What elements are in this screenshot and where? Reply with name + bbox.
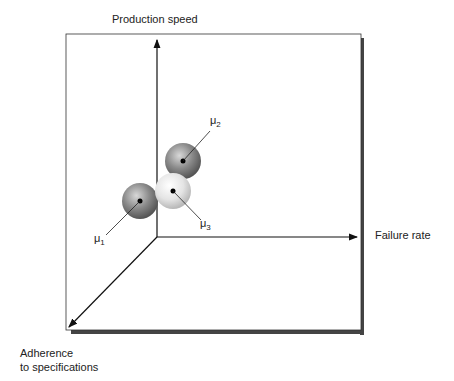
z-axis-label-line1: Adherence xyxy=(20,347,73,360)
cluster-mu3-label: μ3 xyxy=(200,217,211,232)
x-axis-label: Failure rate xyxy=(375,229,431,242)
y-axis-label: Production speed xyxy=(112,13,198,26)
diagram-canvas xyxy=(0,0,454,381)
z-axis-label-line2: to specifications xyxy=(20,361,98,374)
cluster-mu1-label: μ1 xyxy=(94,232,105,247)
cluster-mu2-label: μ2 xyxy=(210,114,221,129)
